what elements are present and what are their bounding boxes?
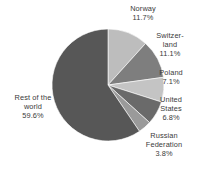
pie-label-poland: Poland 7.1%	[145, 68, 197, 86]
pie-label-norway: Norway 11.7%	[112, 4, 174, 22]
pie-label-russian-federation: Russian Federation 3.8%	[132, 131, 196, 159]
pie-label-switzerland: Switzer- land 11.1%	[143, 31, 197, 59]
pie-label-rest-of-world: Rest of the world 59.6%	[2, 93, 64, 121]
pie-chart-figure: Norway 11.7% Switzer- land 11.1% Poland …	[0, 0, 201, 176]
pie-label-united-states: United States 6.8%	[145, 95, 197, 123]
